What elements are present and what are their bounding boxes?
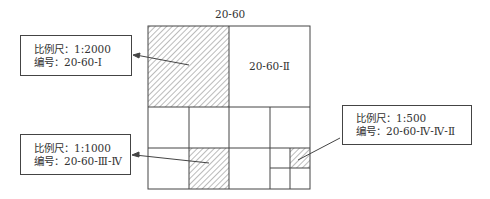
hatched-sheet-1-1000: [189, 148, 229, 189]
code-label: 编号：20-60-Ⅳ-Ⅳ-Ⅱ: [356, 125, 471, 138]
hatched-sheet-1-2000: [148, 26, 229, 107]
scale-label: 比例尺：1:500: [356, 112, 471, 125]
code-label: 编号：20-60-Ⅰ: [34, 56, 131, 69]
code-label: 编号：20-60-Ⅲ-Ⅳ: [34, 155, 130, 168]
scale-label: 比例尺：1:2000: [34, 43, 131, 56]
sheet-title: 20-60: [215, 8, 245, 21]
callout-1-2000: 比例尺：1:2000 编号：20-60-Ⅰ: [20, 35, 132, 76]
callout-1-1000: 比例尺：1:1000 编号：20-60-Ⅲ-Ⅳ: [20, 134, 131, 175]
hatched-sheet-1-500: [290, 148, 310, 168]
callout-1-500: 比例尺：1:500 编号：20-60-Ⅳ-Ⅳ-Ⅱ: [342, 105, 472, 145]
scale-label: 比例尺：1:1000: [34, 142, 130, 155]
quadrant-label-ii: 20-60-Ⅱ: [249, 60, 290, 73]
